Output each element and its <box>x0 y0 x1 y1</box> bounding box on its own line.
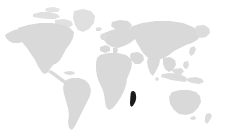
world-locator-map: World map with Madagascar highlighted Ma… <box>0 0 225 136</box>
world-map-svg <box>0 0 225 136</box>
